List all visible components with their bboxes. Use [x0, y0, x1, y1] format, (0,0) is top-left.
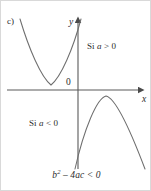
- condition-label-a-negative: Si a < 0: [29, 119, 58, 128]
- condition-suffix-a-positive: > 0: [102, 41, 116, 51]
- condition-label-a-positive: Si a > 0: [87, 42, 116, 51]
- origin-label: 0: [66, 78, 71, 88]
- coordinate-plane-svg: [1, 1, 151, 191]
- condition-suffix-a-negative: < 0: [44, 118, 58, 128]
- y-axis-label: y: [69, 18, 73, 28]
- parabola-upward-curve: [20, 19, 81, 85]
- part-label: c): [7, 17, 14, 26]
- quadratic-discriminant-figure: c) y x 0 Si a > 0 Si a < 0 b2 – 4ac < 0: [0, 0, 151, 191]
- discriminant-caption: b2 – 4ac < 0: [1, 171, 151, 181]
- x-axis-label: x: [142, 95, 146, 105]
- discriminant-rest: – 4ac < 0: [61, 170, 101, 180]
- condition-prefix-a-positive: Si: [87, 41, 97, 51]
- parabola-downward-curve: [75, 96, 145, 169]
- condition-prefix-a-negative: Si: [29, 118, 39, 128]
